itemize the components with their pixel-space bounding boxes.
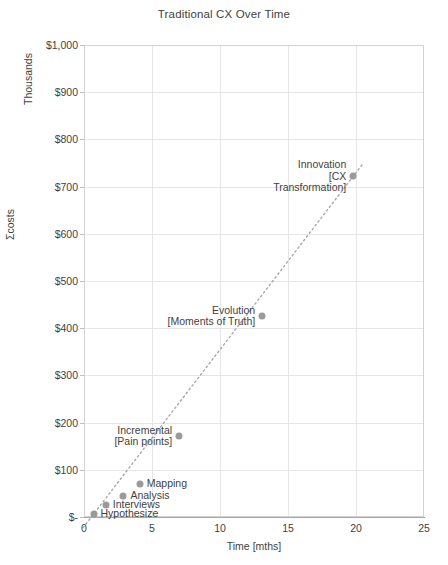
x-axis-tick-label: 20 <box>350 522 362 534</box>
y-axis-tick-mark <box>80 423 84 424</box>
data-point-label: Innovation [CX Transformation] <box>273 159 346 194</box>
x-axis-tick-label: 5 <box>149 522 155 534</box>
data-point-label: Incremental [Pain points] <box>114 424 172 447</box>
y-axis-tick-label: $600 <box>4 228 78 240</box>
y-axis-tick-mark <box>80 375 84 376</box>
gridline-horizontal <box>85 92 423 93</box>
y-axis-tick-mark <box>80 92 84 93</box>
y-axis-tick-label: $700 <box>4 181 78 193</box>
y-axis-tick-label: $100 <box>4 464 78 476</box>
data-point-marker[interactable] <box>350 173 357 180</box>
gridline-horizontal <box>85 281 423 282</box>
gridline-horizontal <box>85 375 423 376</box>
y-axis-tick-mark <box>80 328 84 329</box>
y-axis-tick-mark <box>80 517 84 518</box>
gridline-horizontal <box>85 234 423 235</box>
data-point-marker[interactable] <box>102 502 109 509</box>
data-point-marker[interactable] <box>259 312 266 319</box>
y-axis-tick-label: $900 <box>4 86 78 98</box>
x-axis-tick-label: 0 <box>81 522 87 534</box>
gridline-vertical <box>220 46 221 516</box>
x-axis-tick-label: 25 <box>418 522 430 534</box>
data-point-marker[interactable] <box>136 480 143 487</box>
chart-container: Traditional CX Over Time Thousands Σcost… <box>0 0 448 565</box>
data-point-label: Analysis <box>130 490 169 502</box>
y-axis-tick-label: $400 <box>4 322 78 334</box>
x-axis-tick-label: 10 <box>214 522 226 534</box>
y-axis-tick-label: $800 <box>4 133 78 145</box>
y-axis-tick-label: $- <box>4 511 78 523</box>
gridline-horizontal <box>85 139 423 140</box>
y-axis-tick-mark <box>80 187 84 188</box>
y-axis-tick-label: $300 <box>4 369 78 381</box>
gridline-horizontal <box>85 470 423 471</box>
gridline-vertical <box>288 46 289 516</box>
gridline-vertical <box>356 46 357 516</box>
y-axis-tick-mark <box>80 234 84 235</box>
chart-title: Traditional CX Over Time <box>0 8 448 20</box>
y-axis-tick-mark <box>80 281 84 282</box>
data-point-marker[interactable] <box>90 511 97 518</box>
gridline-horizontal <box>85 328 423 329</box>
y-axis-tick-mark <box>80 45 84 46</box>
data-point-marker[interactable] <box>176 432 183 439</box>
y-axis-tick-mark <box>80 139 84 140</box>
data-point-marker[interactable] <box>120 493 127 500</box>
data-point-label: Mapping <box>147 478 187 490</box>
y-axis-tick-label: $1,000 <box>4 39 78 51</box>
x-axis-title: Time [mths] <box>84 540 424 552</box>
y-axis-tick-mark <box>80 470 84 471</box>
data-point-label: Evolution [Moments of Truth] <box>168 304 256 327</box>
y-axis-tick-label: $500 <box>4 275 78 287</box>
gridline-horizontal <box>85 187 423 188</box>
y-axis-tick-label: $200 <box>4 417 78 429</box>
x-axis-tick-label: 15 <box>282 522 294 534</box>
